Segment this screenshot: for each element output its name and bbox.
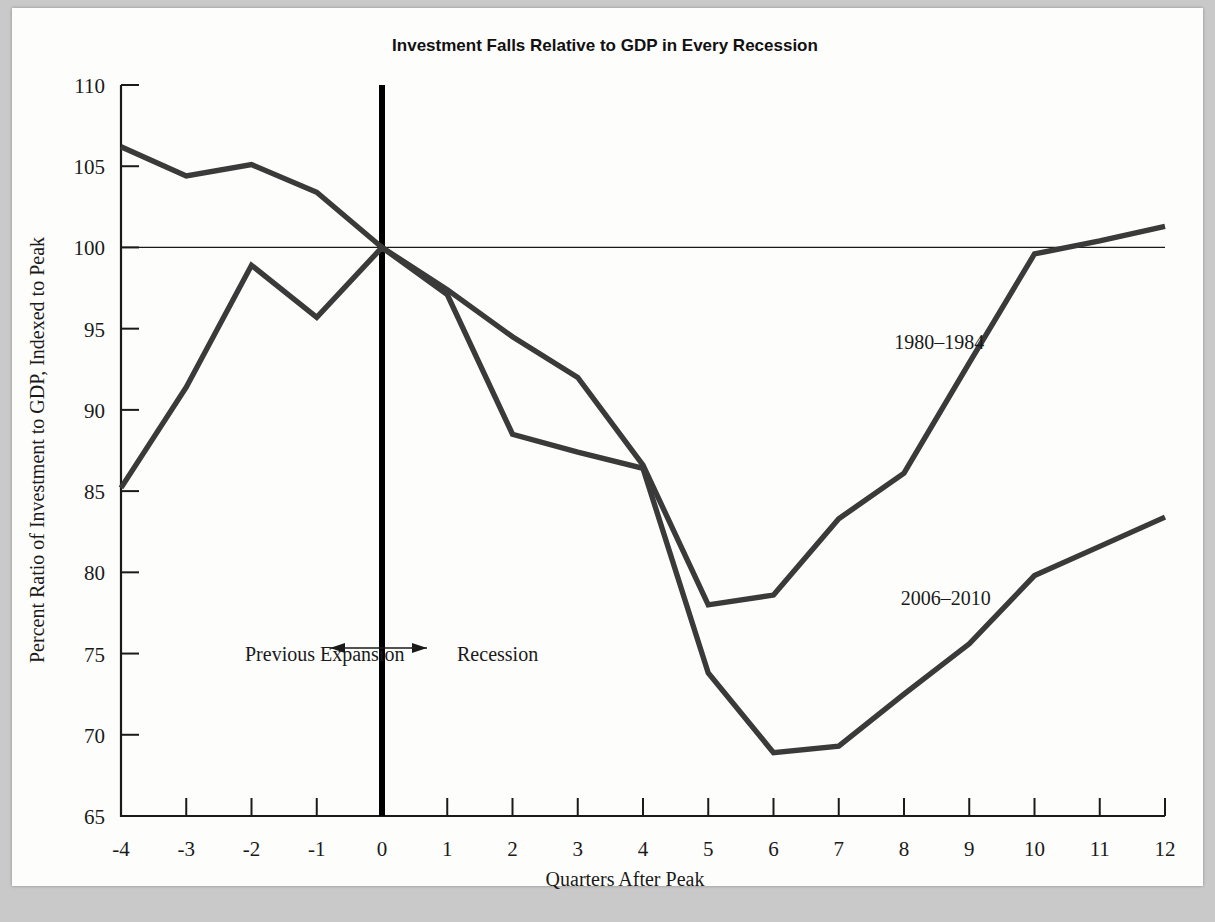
y-tick-label-65: 65 [84, 805, 105, 829]
x-tick-label-12: 12 [1155, 837, 1176, 861]
scanned-page: Investment Falls Relative to GDP in Ever… [0, 0, 1215, 922]
annotation-series-label-2006: 2006–2010 [901, 587, 991, 609]
x-tick-label-7: 7 [834, 837, 845, 861]
x-tick-label-11: 11 [1090, 837, 1110, 861]
x-tick-label-10: 10 [1024, 837, 1045, 861]
annotation-series-label-1980: 1980–1984 [894, 331, 984, 353]
investment-gdp-recession-chart: Investment Falls Relative to GDP in Ever… [0, 0, 1215, 922]
chart-annotations: Previous ExpansionRecession1980–19842006… [245, 331, 991, 666]
x-tick-label--1: -1 [308, 837, 326, 861]
x-tick-label-9: 9 [964, 837, 975, 861]
x-axis-title: Quarters After Peak [546, 868, 705, 890]
y-axis-title: Percent Ratio of Investment to GDP, Inde… [26, 237, 48, 663]
y-tick-label-105: 105 [74, 155, 106, 179]
y-tick-label-90: 90 [84, 399, 105, 423]
x-tick-label-0: 0 [377, 837, 388, 861]
x-axis-tick-labels: -4-3-2-10123456789101112 [112, 837, 1175, 861]
reference-lines [121, 85, 1165, 816]
x-tick-label--3: -3 [178, 837, 196, 861]
x-tick-label--2: -2 [243, 837, 261, 861]
x-axis-ticks [121, 798, 1165, 816]
y-tick-label-100: 100 [74, 236, 106, 260]
x-tick-label-8: 8 [899, 837, 910, 861]
series-line-2006-2010 [121, 247, 1165, 752]
y-axis-tick-labels: 65707580859095100105110 [74, 74, 106, 829]
x-tick-label-1: 1 [442, 837, 453, 861]
y-axis-ticks [121, 85, 139, 816]
x-tick-label-5: 5 [703, 837, 714, 861]
annotation-recession: Recession [457, 643, 538, 665]
y-tick-label-95: 95 [84, 318, 105, 342]
y-tick-label-80: 80 [84, 561, 105, 585]
annotation-previous-expansion: Previous Expansion [245, 643, 404, 666]
y-tick-label-85: 85 [84, 480, 105, 504]
series-line-1980-1984 [121, 147, 1165, 605]
x-tick-label--4: -4 [112, 837, 130, 861]
x-tick-label-4: 4 [638, 837, 649, 861]
x-tick-label-3: 3 [573, 837, 584, 861]
chart-title: Investment Falls Relative to GDP in Ever… [392, 36, 818, 55]
y-tick-label-75: 75 [84, 643, 105, 667]
y-tick-label-70: 70 [84, 724, 105, 748]
y-tick-label-110: 110 [74, 74, 105, 98]
axis-lines [121, 85, 1165, 816]
x-tick-label-2: 2 [507, 837, 518, 861]
x-tick-label-6: 6 [768, 837, 779, 861]
